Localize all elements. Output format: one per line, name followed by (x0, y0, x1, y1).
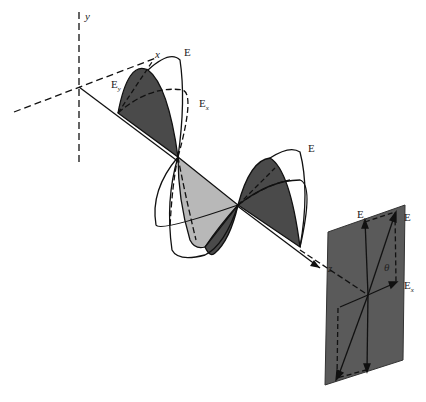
plate-ex-label: Ex (404, 279, 415, 294)
x-axis-label: x (154, 48, 160, 60)
plate-e-label: E (404, 211, 411, 223)
y-axis-label: y (84, 10, 90, 22)
e-label-second: E (308, 142, 315, 154)
ey-lobe-1 (118, 68, 178, 157)
e-label-top: E (184, 46, 191, 58)
polarization-diagram: y x E Ey Ex E Ey E θ Ex z (0, 0, 426, 402)
ey-label: Ey (111, 78, 122, 93)
theta-label: θ (384, 261, 390, 273)
ex-label: Ex (199, 97, 210, 112)
plate-z-label: z (327, 262, 333, 274)
ey-lobe-2 (238, 158, 300, 247)
